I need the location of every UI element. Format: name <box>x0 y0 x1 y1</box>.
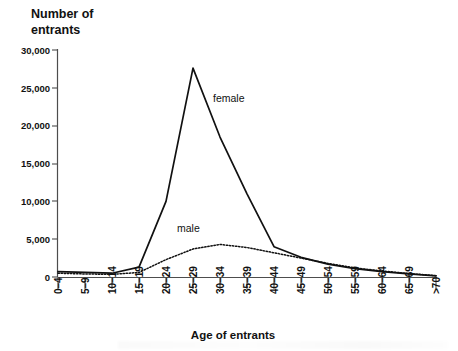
x-axis-title: Age of entrants <box>191 329 275 341</box>
chart-container: Number of entrants 30,000 25,000 20,000 … <box>0 0 458 351</box>
y-tick-label: 25,000 <box>21 83 50 94</box>
series-annotation-female: female <box>213 92 245 104</box>
x-tick-label: 45–49 <box>296 266 307 294</box>
y-tick-label: 15,000 <box>21 158 50 169</box>
page-edge-artifact <box>118 341 448 349</box>
x-tick-label: 50–54 <box>323 266 334 294</box>
y-tick-label: 30,000 <box>21 45 50 56</box>
series-annotation-male: male <box>177 222 200 234</box>
y-axis-title-line1: Number of <box>31 7 94 21</box>
y-tick-label: 5,000 <box>26 234 50 245</box>
series-line-female <box>58 68 436 276</box>
x-axis-labels: 0–4 5–9 10–14 15–19 20–24 25–29 30–34 35… <box>53 266 442 294</box>
y-axis-title-line2: entrants <box>31 23 80 37</box>
x-tick-label: 25–29 <box>188 266 199 294</box>
y-tick-label: 20,000 <box>21 120 50 131</box>
x-tick-label: 20–24 <box>161 266 172 294</box>
x-tick-label: 0–4 <box>53 277 64 294</box>
x-tick-label: 10–14 <box>107 266 118 294</box>
line-chart: Number of entrants 30,000 25,000 20,000 … <box>0 0 458 351</box>
x-tick-label: 30–34 <box>215 266 226 294</box>
y-tick-label: 10,000 <box>21 196 50 207</box>
x-tick-label: 15–19 <box>134 266 145 294</box>
y-axis: 30,000 25,000 20,000 15,000 10,000 5,000… <box>21 45 58 283</box>
x-tick-label: 35–39 <box>242 266 253 294</box>
x-tick-label: 40–44 <box>269 266 280 294</box>
x-tick-label: >70 <box>431 277 442 294</box>
x-tick-label: 5–9 <box>80 277 91 294</box>
x-tick-label: 65–69 <box>404 266 415 294</box>
y-tick-label: 0 <box>45 272 50 283</box>
